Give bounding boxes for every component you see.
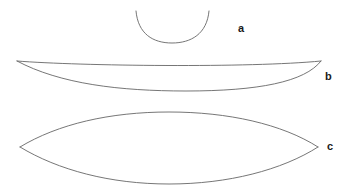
shape-b-upper-arc bbox=[17, 61, 321, 66]
shape-a-arc bbox=[136, 11, 209, 43]
shape-label-a: a bbox=[238, 23, 244, 34]
shape-b-group bbox=[17, 61, 321, 91]
shape-label-c: c bbox=[327, 141, 333, 152]
shape-a-group bbox=[136, 11, 209, 43]
shape-c-lower-arc bbox=[20, 147, 318, 184]
shape-label-b: b bbox=[325, 71, 332, 82]
shape-c-group bbox=[20, 112, 318, 184]
diagram-canvas: a b c bbox=[0, 0, 354, 192]
curve-shapes-figure bbox=[0, 0, 354, 192]
shape-c-upper-arc bbox=[20, 112, 318, 147]
